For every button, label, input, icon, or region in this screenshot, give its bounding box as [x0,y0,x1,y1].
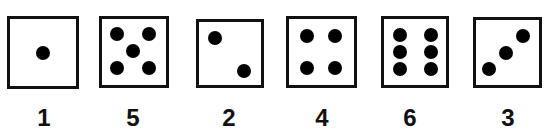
die-3 [473,17,542,88]
pip-icon [237,64,251,78]
die-1 [7,16,79,89]
pip-icon [328,29,342,43]
pip-icon [142,27,156,41]
pip-icon [300,61,314,75]
die-label: 6 [390,104,430,132]
pip-icon [482,62,496,76]
die-4 [286,16,357,88]
pip-icon [328,61,342,75]
pip-icon [516,29,530,43]
pip-icon [424,45,438,59]
die-label: 1 [24,104,64,132]
pip-icon [499,46,513,60]
pip-icon [126,44,140,58]
die-2 [196,19,264,88]
die-label: 4 [302,104,342,132]
pip-icon [208,31,222,45]
die-label: 5 [113,104,153,132]
pip-icon [300,29,314,43]
pip-icon [110,27,124,41]
die-6 [381,16,449,88]
pip-icon [393,45,407,59]
pip-icon [393,62,407,76]
pip-icon [36,46,50,60]
die-5 [99,16,169,88]
pip-icon [424,62,438,76]
die-label: 3 [488,104,528,132]
pip-icon [142,61,156,75]
pip-icon [424,28,438,42]
die-label: 2 [209,104,249,132]
pip-icon [393,28,407,42]
pip-icon [110,61,124,75]
